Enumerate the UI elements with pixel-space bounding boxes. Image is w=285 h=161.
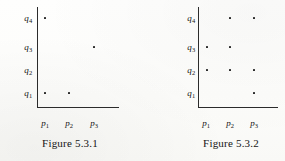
data-point-p1-q1	[44, 92, 46, 94]
data-point-p2-q3	[229, 46, 231, 48]
x-axis-label-p3: p3	[243, 119, 265, 128]
x-axis-label-p2-sub: 2	[231, 122, 234, 129]
data-point-p2-q1	[68, 92, 70, 94]
data-point-p2-q2	[229, 69, 231, 71]
x-axis-label-p1-sub: 1	[46, 122, 49, 129]
x-axis-label-p1: p1	[195, 119, 217, 128]
y-axis-label-q3: q3	[8, 43, 32, 52]
x-axis-label-p1-base: p	[202, 118, 207, 128]
data-point-p1-q3	[206, 46, 208, 48]
x-axis-label-p2-base: p	[226, 118, 231, 128]
x-axis-label-p2-sub: 2	[70, 122, 73, 129]
x-axis-label-p2: p2	[219, 119, 241, 128]
data-point-p3-q1	[253, 92, 255, 94]
figure-caption: Figure 5.3.2	[181, 137, 281, 150]
x-axis-label-p1-base: p	[41, 118, 46, 128]
y-axis-label-q1-sub: 1	[29, 92, 32, 99]
y-axis-label-q4: q4	[8, 14, 32, 23]
x-axis-label-p3: p3	[83, 119, 105, 128]
y-axis-label-q3: q3	[171, 43, 195, 52]
y-axis-label-q4: q4	[171, 14, 195, 23]
figure-5-3-2: q4 q3 q2 q1 p1 p2 p3	[143, 0, 285, 161]
y-axis-label-q1: q1	[8, 89, 32, 98]
figure-caption: Figure 5.3.1	[20, 137, 120, 150]
data-point-p3-q4	[253, 17, 255, 19]
data-point-p1-q2	[206, 69, 208, 71]
horizontal-axis	[37, 107, 119, 108]
x-axis-label-p2-base: p	[65, 118, 70, 128]
figure-5-3-1: q4 q3 q2 q1 p1 p2 p3 Figure 5.3.1	[0, 0, 143, 161]
y-axis-label-q2-sub: 2	[192, 69, 195, 76]
figures-sheet: q4 q3 q2 q1 p1 p2 p3 Figure 5.3.1	[0, 0, 285, 161]
horizontal-axis	[198, 107, 278, 108]
data-point-p3-q3	[93, 46, 95, 48]
vertical-axis	[198, 7, 199, 108]
y-axis-label-q1: q1	[171, 89, 195, 98]
x-axis-label-p1: p1	[34, 119, 56, 128]
y-axis-label-q1-sub: 1	[192, 92, 195, 99]
x-axis-label-p2: p2	[58, 119, 80, 128]
data-point-p3-q2	[253, 69, 255, 71]
y-axis-label-q2: q2	[171, 66, 195, 75]
y-axis-label-q4-sub: 4	[192, 17, 195, 24]
vertical-axis	[37, 7, 38, 108]
x-axis-label-p3-sub: 3	[255, 122, 258, 129]
y-axis-label-q2-sub: 2	[29, 69, 32, 76]
x-axis-label-p3-base: p	[250, 118, 255, 128]
y-axis-label-q2: q2	[8, 66, 32, 75]
y-axis-label-q4-sub: 4	[29, 17, 32, 24]
y-axis-label-q3-sub: 3	[192, 46, 195, 53]
data-point-p2-q4	[229, 17, 231, 19]
x-axis-label-p3-sub: 3	[95, 122, 98, 129]
x-axis-label-p3-base: p	[90, 118, 95, 128]
y-axis-label-q3-sub: 3	[29, 46, 32, 53]
x-axis-label-p1-sub: 1	[207, 122, 210, 129]
data-point-p1-q4	[44, 17, 46, 19]
